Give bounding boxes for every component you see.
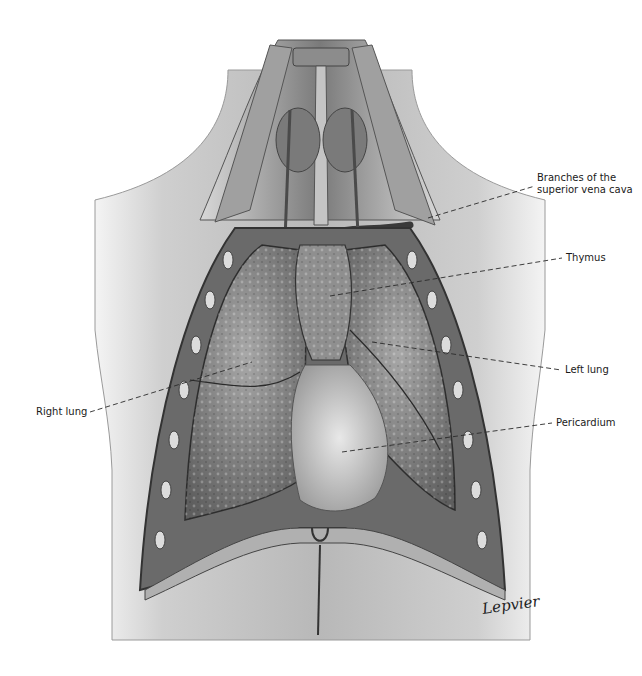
thyroid-left	[276, 108, 320, 172]
hyoid-band	[293, 48, 349, 66]
label-branches-line2: superior vena cava	[537, 184, 633, 196]
label-branches-superior-vena-cava: Branches of the superior vena cava	[537, 172, 633, 196]
label-pericardium: Pericardium	[556, 417, 615, 429]
thorax-illustration	[0, 0, 642, 676]
label-thymus: Thymus	[566, 252, 606, 264]
thyroid-right	[323, 108, 367, 172]
label-right-lung: Right lung	[36, 406, 87, 418]
label-left-lung: Left lung	[565, 364, 609, 376]
label-branches-line1: Branches of the	[537, 172, 633, 184]
